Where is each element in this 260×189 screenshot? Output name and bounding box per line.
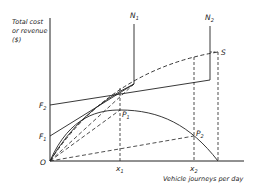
label-s: S <box>221 48 226 57</box>
solid-rising-curve <box>50 84 134 161</box>
profit-curve <box>50 110 218 161</box>
y-axis-label-line-3: ($) <box>12 36 21 44</box>
label-f2: F2 <box>39 101 47 111</box>
label-p2: P2 <box>196 129 204 139</box>
label-n1: N1 <box>130 11 139 21</box>
origin-label: O <box>40 158 46 167</box>
label-x1: x1 <box>115 164 124 174</box>
x-axis-label: Vehicle journeys per day <box>163 175 243 183</box>
y-axis-label-line-1: Total cost <box>12 18 43 26</box>
cost-revenue-diagram: Total cost or revenue ($) Vehicle journe… <box>0 0 260 189</box>
y-axis-label-line-2: or revenue <box>12 27 47 35</box>
ray-o-to-n1 <box>50 84 134 161</box>
total-cost-line-n2 <box>50 26 210 105</box>
label-f1: F1 <box>39 132 47 142</box>
label-p1: P1 <box>122 110 130 120</box>
total-cost-line-n1 <box>50 24 134 136</box>
label-x2: x2 <box>189 164 198 174</box>
ray-o-to-p2 <box>50 136 194 161</box>
label-n2: N2 <box>205 13 214 23</box>
